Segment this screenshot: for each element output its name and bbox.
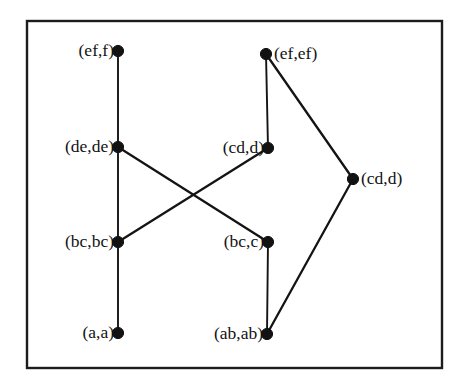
node-label-cd_d_r: (cd,d) [361,168,402,188]
node-dot-bc_bc[interactable] [112,236,123,247]
node-label-ef_f: (ef,f) [79,40,115,60]
diagram-frame-border [27,21,442,368]
node-dot-ab_ab[interactable] [261,328,272,339]
node-label-ab_ab: (ab,ab) [214,323,263,343]
node-dot-cd_d_m[interactable] [262,142,273,153]
node-label-de_de: (de,de) [65,136,114,156]
hasse-diagram: (ef,f)(ef,ef)(de,de)(cd,d)(cd,d)(bc,bc)(… [0,0,465,385]
figure-root: (ef,f)(ef,ef)(de,de)(cd,d)(cd,d)(bc,bc)(… [0,0,465,385]
node-label-bc_bc: (bc,bc) [65,231,114,251]
node-dot-cd_d_r[interactable] [347,173,358,184]
node-dot-ef_ef[interactable] [260,48,271,59]
edge-bc_c-to-ab_ab [267,242,268,334]
node-dot-de_de[interactable] [112,141,123,152]
node-label-ef_ef: (ef,ef) [274,43,317,63]
node-label-cd_d_m: (cd,d) [223,137,264,157]
node-label-bc_c: (bc,c) [224,231,264,251]
node-dot-ef_f[interactable] [112,45,123,56]
node-label-a_a: (a,a) [82,322,114,342]
node-dot-bc_c[interactable] [262,236,273,247]
node-dot-a_a[interactable] [112,327,123,338]
